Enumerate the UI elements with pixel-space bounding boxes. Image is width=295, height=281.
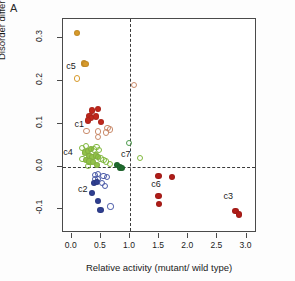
data-point-c1: [85, 117, 91, 123]
x-tick-label: 2.0: [175, 240, 199, 250]
y-tick-label: 0.3: [34, 23, 44, 49]
horizontal-reference-line: [63, 167, 255, 168]
x-tick-label: 3.0: [234, 240, 258, 250]
data-point-c7: [126, 140, 132, 146]
data-point-c3: [236, 211, 242, 217]
data-point-c1: [95, 134, 101, 140]
x-tick-mark: [216, 233, 217, 238]
cluster-label-c5: c5: [66, 61, 76, 71]
x-tick-label: 0.5: [88, 240, 112, 250]
y-axis-ticks: -0.10.00.10.20.3: [52, 18, 62, 232]
x-axis-ticks: 0.00.51.01.52.02.53.0: [62, 233, 256, 253]
x-tick-mark: [187, 233, 188, 238]
cluster-label-c4: c4: [63, 147, 73, 157]
x-tick-mark: [246, 233, 247, 238]
x-tick-mark: [71, 233, 72, 238]
x-axis-label: Relative activity (mutant/ wild type): [62, 262, 256, 273]
data-point-c5: [82, 61, 88, 67]
data-point-c2: [107, 203, 113, 209]
y-tick-label: 0.0: [34, 152, 44, 178]
y-tick-label: -0.1: [34, 194, 44, 220]
y-axis-label: Disorder difference (mutant – wild type): [0, 0, 7, 60]
vertical-reference-line: [130, 19, 131, 231]
data-point-c1: [95, 106, 101, 112]
x-tick-mark: [158, 233, 159, 238]
data-point-c6: [155, 193, 161, 199]
data-point-c7: [119, 165, 125, 171]
data-point-c2: [104, 174, 110, 180]
cluster-label-c6: c6: [151, 179, 161, 189]
data-point-c1: [83, 128, 89, 134]
data-point-c5: [74, 75, 80, 81]
cluster-label-c7: c7: [121, 149, 131, 159]
data-point-c1: [103, 129, 109, 135]
x-tick-label: 2.5: [204, 240, 228, 250]
figure-panel: A Disorder difference (mutant – wild typ…: [0, 0, 295, 281]
data-point-c2: [97, 207, 103, 213]
cluster-label-c1: c1: [74, 119, 84, 129]
x-tick-label: 1.5: [146, 240, 170, 250]
y-tick-label: 0.2: [34, 66, 44, 92]
data-point-c6: [169, 174, 175, 180]
x-tick-label: 0.0: [59, 240, 83, 250]
data-point-c2: [89, 190, 95, 196]
data-point-c6: [156, 201, 162, 207]
x-tick-mark: [129, 233, 130, 238]
data-point-c4: [137, 155, 143, 161]
data-point-c1: [93, 113, 99, 119]
cluster-label-c3: c3: [224, 191, 234, 201]
data-point-c2: [95, 198, 101, 204]
y-tick-label: 0.1: [34, 109, 44, 135]
plot-area: c5c1c4c2c7c6c3: [62, 18, 256, 232]
data-point-c1: [131, 82, 137, 88]
x-tick-mark: [100, 233, 101, 238]
data-point-c5: [74, 30, 80, 36]
data-point-c4: [85, 163, 91, 169]
cluster-label-c2: c2: [78, 184, 88, 194]
panel-label: A: [10, 2, 18, 14]
data-point-c2: [102, 183, 108, 189]
data-point-c1: [98, 119, 104, 125]
x-tick-label: 1.0: [117, 240, 141, 250]
